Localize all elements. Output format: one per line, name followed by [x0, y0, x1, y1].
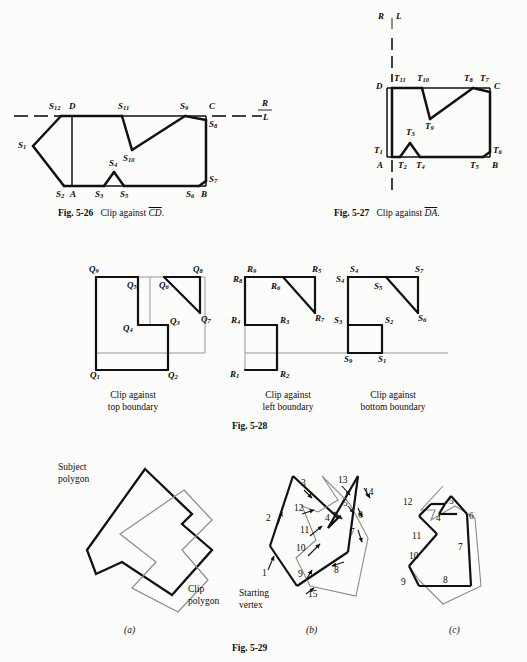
figure-5-28-caption-number: Fig. 5-28 — [232, 421, 267, 431]
figure-5-28-panel-bottom: S4 S4 S7 S5 S6 S3 S2 S9 S1 — [330, 265, 460, 385]
vertex-number-11: 11 — [412, 532, 421, 542]
label-B: B — [492, 161, 498, 170]
label-S6: S6 — [418, 314, 426, 324]
panel-c-drawing — [395, 470, 515, 620]
seg-8-9 — [409, 566, 419, 586]
label-R5: R5 — [312, 265, 321, 275]
vertex-number-14: 14 — [364, 488, 374, 498]
label-Q1: Q1 — [90, 371, 100, 381]
vertex-number-9: 9 — [401, 578, 406, 588]
label-R-left: R — [378, 12, 384, 21]
label-Q8: Q8 — [193, 265, 203, 275]
label-D: D — [376, 82, 383, 91]
subject-right — [348, 476, 358, 552]
starting-vertex-line1: Starting — [239, 588, 299, 600]
starting-vertex-line2: vertex — [239, 600, 299, 612]
label-Q5: Q5 — [127, 281, 137, 291]
vertex-number-7: 7 — [350, 528, 355, 538]
label-R1: R1 — [230, 370, 239, 380]
arrow-7 — [358, 530, 362, 542]
label-S9: S9 — [344, 355, 352, 365]
panel-bottom-drawing — [330, 265, 460, 385]
poly-seg-s6-s5 — [386, 277, 418, 313]
panel-left-caption-line1: Clip against — [243, 390, 333, 402]
label-S12: S12 — [49, 102, 61, 112]
clip-polygon-label-line1: Clip — [188, 584, 236, 596]
starting-vertex-label: Starting vertex — [239, 588, 299, 612]
vertex-number-2: 2 — [266, 514, 271, 524]
panel-top-caption-line2: top boundary — [88, 402, 178, 414]
subject-polygon-outline — [87, 469, 212, 595]
poly-seg-s10-s11 — [122, 116, 132, 150]
subject-polygon-label: Subject polygon — [58, 462, 116, 486]
poly-seg-t4-t3 — [410, 143, 420, 157]
vertex-number-3: 3 — [301, 479, 306, 489]
label-S1: S1 — [18, 141, 26, 151]
figure-5-27-drawing — [330, 14, 520, 204]
label-R6: R6 — [271, 282, 280, 292]
poly-seg-t3-t2 — [400, 143, 410, 157]
figure-5-26-caption-text: Clip against — [100, 208, 146, 218]
figure-5-26-caption: Fig. 5-26 Clip against CD. — [58, 208, 164, 218]
vertex-number-1: 1 — [262, 569, 267, 579]
label-L-below: L — [263, 113, 269, 122]
label-T2: T2 — [398, 161, 407, 171]
label-S4-top: S4 — [350, 265, 358, 275]
panel-bottom-caption-line1: Clip against — [338, 390, 448, 402]
label-Q6: Q6 — [159, 281, 169, 291]
label-S4: S4 — [109, 159, 117, 169]
vertex-number-11: 11 — [300, 526, 309, 536]
vertex-number-4: 4 — [436, 514, 441, 524]
vertex-number-4: 4 — [325, 514, 330, 524]
label-T10: T10 — [417, 74, 429, 84]
label-S3: S3 — [95, 190, 103, 200]
poly-seg-t10-t9 — [422, 88, 430, 119]
poly-seg-r7-r6 — [283, 277, 315, 313]
label-A: A — [377, 161, 383, 170]
label-A: A — [70, 190, 76, 199]
label-S5: S5 — [120, 190, 128, 200]
clip-polygon-label-line2: polygon — [188, 596, 236, 608]
vertex-number-10: 10 — [296, 544, 306, 554]
figure-5-29-caption-number: Fig. 5-29 — [232, 643, 267, 653]
label-T4: T4 — [416, 161, 425, 171]
figure-5-29-caption: Fig. 5-29 — [232, 643, 267, 653]
label-R2: R2 — [280, 370, 289, 380]
panel-b-letter: (b) — [306, 625, 317, 635]
figure-5-29-panel-a: Subject polygon Clip polygon — [60, 462, 230, 622]
textbook-page: S12 D S11 S9 C R L S8 S1 S10 S4 S7 S2 A … — [0, 0, 527, 662]
seg-6-7 — [467, 514, 471, 586]
figure-5-29-panel-b: 1 2 3 4 5 6 7 8 9 10 11 12 13 14 15 Star… — [240, 462, 390, 622]
label-R7: R7 — [315, 314, 324, 324]
panel-a-letter: (a) — [124, 625, 135, 635]
subject-left-lower — [270, 546, 297, 586]
panel-c-letter: (c) — [449, 625, 460, 635]
vertex-number-5: 5 — [449, 497, 454, 507]
poly-seg-s9-s10 — [132, 116, 185, 150]
label-T6: T6 — [493, 146, 502, 156]
poly-seg-t9-t8 — [430, 88, 473, 119]
label-T3: T3 — [406, 128, 415, 138]
panel-bottom-caption-line2: bottom boundary — [338, 402, 448, 414]
label-S8: S8 — [209, 120, 217, 130]
panel-bottom-caption: Clip against bottom boundary — [338, 390, 448, 414]
vertex-number-9: 9 — [298, 570, 303, 580]
label-S9: S9 — [180, 102, 188, 112]
panel-left-caption: Clip against left boundary — [243, 390, 333, 414]
label-R-above: R — [262, 99, 268, 108]
figure-5-29-panel-c: 12 4 5 6 7 8 9 10 11 — [395, 470, 515, 620]
label-Q9: Q9 — [89, 265, 99, 275]
label-C: C — [209, 102, 215, 111]
label-T5: T5 — [470, 161, 479, 171]
clip-polygon-label: Clip polygon — [188, 584, 236, 608]
label-S7: S7 — [415, 265, 423, 275]
label-T8: T8 — [464, 74, 473, 84]
label-L-right: L — [396, 12, 402, 21]
vertex-number-13: 13 — [338, 476, 348, 486]
poly-seg-s4-s5 — [114, 172, 124, 186]
label-S4: S4 — [336, 275, 344, 285]
label-R8: R8 — [233, 275, 242, 285]
label-S11: S11 — [118, 102, 129, 112]
label-B: B — [201, 190, 207, 199]
vertex-number-5: 5 — [343, 499, 348, 509]
